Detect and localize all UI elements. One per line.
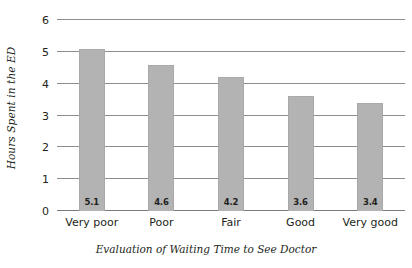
bar-value-label: 4.2 <box>219 197 243 207</box>
x-axis-tick-labels: Very poorPoorFairGoodVery good <box>57 216 405 234</box>
y-tick-label-5: 5 <box>19 45 49 58</box>
x-tick-label-very-good: Very good <box>325 216 412 229</box>
y-axis-title-text: Hours Spent in the ED <box>5 46 17 169</box>
bar-very-poor: 5.1 <box>79 49 105 211</box>
bar-fair: 4.2 <box>218 77 244 211</box>
y-tick-label-6: 6 <box>19 14 49 27</box>
y-tick-label-3: 3 <box>19 109 49 122</box>
bar-value-label: 3.4 <box>358 197 382 207</box>
x-axis-title: Evaluation of Waiting Time to See Doctor <box>0 243 412 255</box>
bar-value-label: 5.1 <box>80 197 104 207</box>
gridline-5 <box>57 51 405 52</box>
plot-area: 5.14.64.23.63.4 <box>57 20 405 211</box>
y-axis-tick-labels: 0123456 <box>17 20 49 211</box>
bar-value-label: 4.6 <box>149 197 173 207</box>
bar-good: 3.6 <box>288 96 314 211</box>
y-tick-label-1: 1 <box>19 173 49 186</box>
bar-poor: 4.6 <box>148 65 174 211</box>
gridline-6 <box>57 19 405 20</box>
y-tick-label-4: 4 <box>19 77 49 90</box>
y-tick-label-0: 0 <box>19 205 49 218</box>
y-tick-label-2: 2 <box>19 141 49 154</box>
bar-very-good: 3.4 <box>357 103 383 211</box>
bar-chart-figure: Hours Spent in the ED 0123456 5.14.64.23… <box>0 0 412 268</box>
bar-value-label: 3.6 <box>289 197 313 207</box>
